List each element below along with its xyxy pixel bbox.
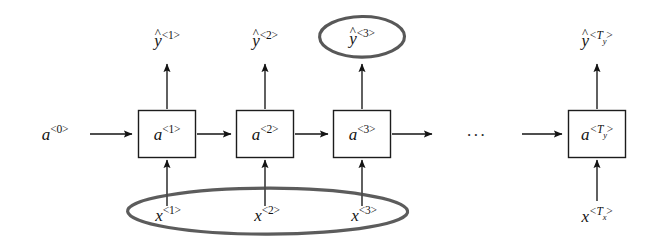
label-input-3-superscript: <3> [359, 204, 377, 216]
rnn-diagram: ... a<0> a<1> a<2> a<3> a<Ty> ^y<1> ^y<2… [0, 0, 664, 245]
label-cell-1-base: a [154, 125, 163, 144]
label-output-1: ^y<1> [154, 31, 180, 49]
label-cell-last-superscript: <Ty> [589, 123, 613, 135]
label-cell-2-superscript: <2> [260, 123, 278, 135]
label-input-last: x<Tx> [581, 207, 612, 225]
label-input-last-sup-subscript: x [603, 212, 607, 222]
label-output-2-hatwrap: ^y [252, 32, 260, 49]
label-a0: a<0> [42, 125, 69, 143]
label-a0-superscript: <0> [50, 123, 68, 135]
label-output-3-hatwrap: ^y [349, 30, 357, 47]
label-output-last-sup-subscript: y [603, 36, 607, 46]
label-cell-2: a<2> [252, 125, 279, 143]
hat-accent-icon: ^ [155, 25, 161, 38]
label-cell-last-sup-subscript: y [603, 130, 607, 140]
label-cell-2-base: a [252, 125, 261, 144]
label-output-last: ^y<Ty> [581, 31, 612, 49]
hat-accent-icon: ^ [350, 23, 356, 36]
output-arrows [167, 64, 597, 109]
label-cell-1: a<1> [154, 125, 181, 143]
label-input-1-base: x [155, 206, 163, 225]
label-cell-last: a<Ty> [581, 125, 613, 143]
label-output-1-hatwrap: ^y [154, 32, 162, 49]
label-cell-last-sup-text: <T [589, 123, 603, 135]
label-output-last-superscript: <Ty> [589, 29, 613, 41]
label-input-last-sup-text: <T [589, 205, 603, 217]
hat-accent-icon: ^ [253, 25, 259, 38]
label-output-last-hatwrap: ^y [581, 32, 589, 49]
label-cell-3-superscript: <3> [357, 123, 375, 135]
label-input-3: x<3> [351, 206, 377, 224]
label-output-2-superscript: <2> [260, 29, 278, 41]
diagram-canvas [0, 0, 664, 245]
label-output-3: ^y<3> [349, 29, 375, 47]
label-input-3-base: x [351, 206, 359, 225]
label-output-last-sup-text: <T [589, 29, 603, 41]
label-input-2: x<2> [254, 206, 280, 224]
sequence-ellipsis: ... [467, 121, 487, 141]
label-input-2-base: x [254, 206, 262, 225]
label-a0-base: a [42, 125, 51, 144]
label-output-1-superscript: <1> [162, 29, 180, 41]
label-input-1-superscript: <1> [163, 204, 181, 216]
label-input-last-superscript: <Tx> [589, 205, 613, 217]
label-cell-3-base: a [349, 125, 358, 144]
label-cell-3: a<3> [349, 125, 376, 143]
label-input-1: x<1> [155, 206, 181, 224]
label-cell-last-base: a [581, 125, 590, 144]
label-input-last-base: x [581, 207, 589, 226]
label-output-3-superscript: <3> [357, 27, 375, 39]
hat-accent-icon: ^ [582, 25, 588, 38]
label-output-2: ^y<2> [252, 31, 278, 49]
label-input-2-superscript: <2> [262, 204, 280, 216]
label-cell-1-superscript: <1> [162, 123, 180, 135]
